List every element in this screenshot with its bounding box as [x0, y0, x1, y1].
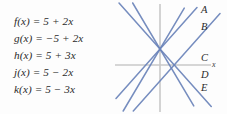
equation-k: k(x) = 5 − 3x: [14, 83, 75, 95]
line-label-b: B: [201, 21, 207, 32]
line-label-e: E: [201, 82, 207, 93]
line-a: [123, 8, 184, 111]
equation-j-text: j(x) = 5 − 2x: [14, 66, 73, 78]
line-d: [119, 3, 211, 107]
equation-h: h(x) = 5 + 3x: [14, 49, 76, 61]
equation-g-text: g(x) = −5 + 2x: [14, 32, 83, 44]
figure-linear-functions: f(x) = 5 + 2x g(x) = −5 + 2x h(x) = 5 + …: [0, 0, 227, 114]
equation-k-text: k(x) = 5 − 3x: [14, 83, 75, 95]
graph-canvas: [113, 0, 227, 114]
equation-h-text: h(x) = 5 + 3x: [14, 49, 76, 61]
x-axis-label: x: [212, 60, 216, 69]
equation-j: j(x) = 5 − 2x: [14, 66, 73, 78]
line-label-a: A: [201, 4, 207, 15]
line-label-c: C: [201, 52, 208, 63]
equation-g: g(x) = −5 + 2x: [14, 32, 83, 44]
equation-list: f(x) = 5 + 2x g(x) = −5 + 2x h(x) = 5 + …: [0, 0, 113, 114]
equation-f: f(x) = 5 + 2x: [14, 15, 73, 27]
line-label-d: D: [201, 69, 209, 80]
coordinate-graph: A B C D E x: [113, 0, 227, 114]
equation-f-text: f(x) = 5 + 2x: [14, 15, 73, 27]
